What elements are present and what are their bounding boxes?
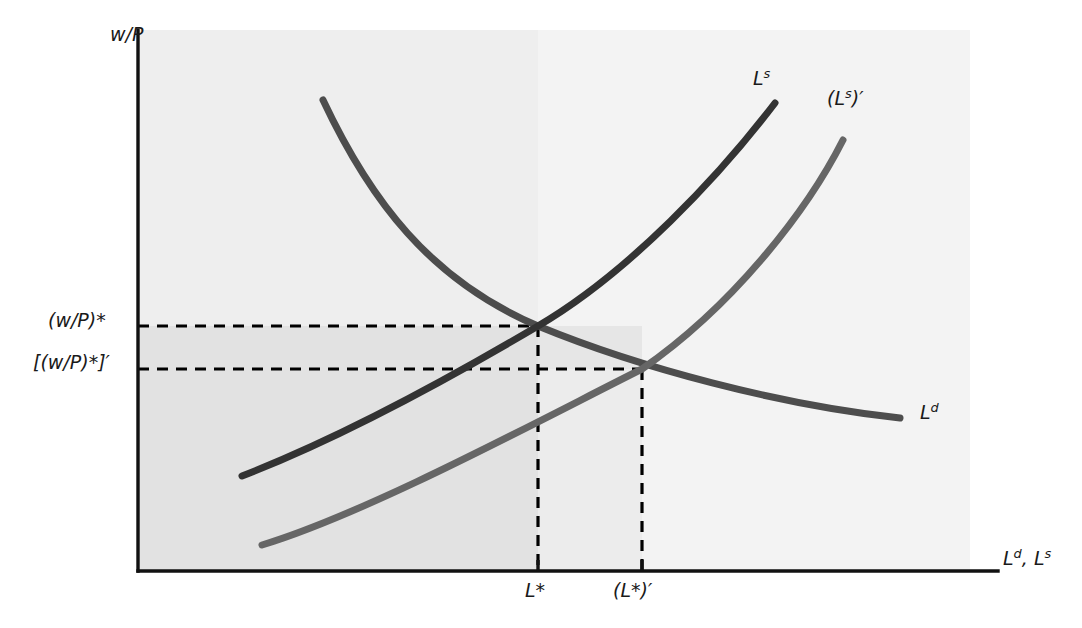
curve-label-labor-demand: Ld xyxy=(920,402,939,422)
y-tick-label-wage-star: (w/P)* xyxy=(48,311,106,330)
curve-label-ld-base: L xyxy=(920,401,931,423)
curve-label-ls-prime-sup: s xyxy=(845,86,852,101)
plot-shade-upper-left xyxy=(138,30,538,326)
curve-label-labor-supply-shifted: (Ls)′ xyxy=(827,88,863,108)
wage-star-prime-open: [(w/P) xyxy=(33,351,89,373)
x-axis-label-ls-base: L xyxy=(1034,547,1045,569)
wage-star-text: (w/P) xyxy=(48,309,96,331)
x-axis-label: Ld, Ls xyxy=(1003,548,1051,568)
x-axis-label-ls-sup: s xyxy=(1044,546,1051,561)
x-axis-label-comma: , xyxy=(1022,547,1034,569)
x-axis-label-ld-sup: d xyxy=(1014,546,1022,561)
y-tick-label-wage-star-prime: [(w/P)*]′ xyxy=(33,353,110,372)
y-axis-label: w/P xyxy=(110,25,143,44)
curve-label-labor-supply: Ls xyxy=(753,68,770,88)
x-tick-label-l-star-prime: (L*)′ xyxy=(613,581,652,600)
wage-star-prime-bracket: ] xyxy=(98,351,105,373)
x-axis-label-ld-base: L xyxy=(1003,547,1014,569)
plot-shade-lower-left-block xyxy=(138,369,538,571)
wage-star-prime-asterisk: * xyxy=(89,351,99,373)
curve-label-ld-sup: d xyxy=(931,400,939,415)
curve-label-ls-base: L xyxy=(753,67,764,89)
x-tick-label-l-star: L* xyxy=(525,581,545,600)
chart-canvas xyxy=(0,0,1082,628)
wage-star-prime-mark: ′ xyxy=(106,351,110,373)
labor-market-diagram: w/P Ld, Ls Ls (Ls)′ Ld (w/P)* [(w/P)*]′ … xyxy=(0,0,1082,628)
curve-label-ls-prime-close: )′ xyxy=(852,87,864,109)
curve-label-ls-sup: s xyxy=(764,66,771,81)
curve-label-ls-prime-open: (L xyxy=(827,87,845,109)
wage-star-asterisk: * xyxy=(96,309,106,331)
